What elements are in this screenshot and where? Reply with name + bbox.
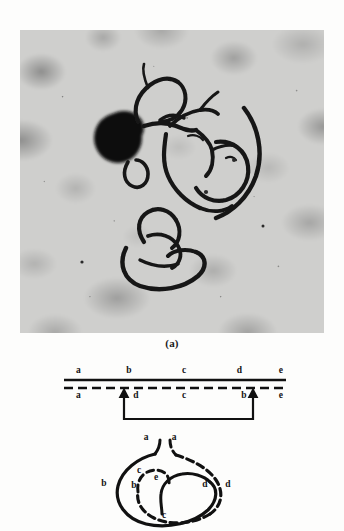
- linear-diagram-strands: [60, 366, 290, 424]
- breakpoint-arrow-right-head: [249, 390, 256, 397]
- inversion-loop-diagram: a a b b c e c d d: [98, 424, 263, 531]
- dashed-arm-a: [170, 440, 176, 455]
- panel-a-label: (a): [0, 337, 344, 349]
- solid-arm-a: [155, 440, 160, 454]
- inversion-linear-diagram: a b c d e a d c b e: [60, 366, 290, 424]
- dashed-inner-loop-c: [138, 470, 169, 492]
- loop-diagram-strands: [98, 424, 263, 531]
- dashed-bottom-arc: [138, 492, 210, 523]
- micrograph-panel: [20, 30, 324, 333]
- chromosome-micrograph-icon: [20, 30, 324, 333]
- inversion-bracket: [124, 412, 253, 419]
- breakpoint-arrow-left-head: [120, 390, 127, 397]
